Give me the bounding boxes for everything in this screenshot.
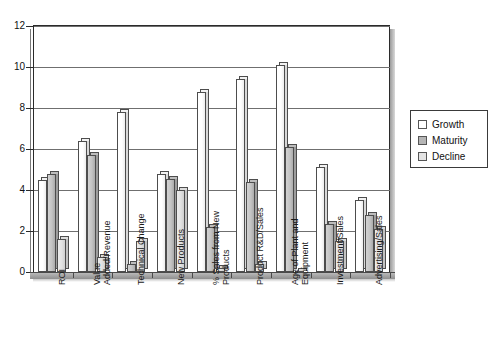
x-axis-category-label: Technical Change: [136, 213, 146, 285]
y-axis-tick: [26, 67, 33, 68]
y-axis-line: [33, 25, 34, 273]
x-axis-tick: [231, 273, 232, 278]
gridline: [33, 26, 390, 27]
bar-chart: 024681012 ROIValueAdded/RevenueTechnical…: [0, 0, 501, 364]
y-axis-tick: [26, 190, 33, 191]
x-axis-tick: [73, 273, 74, 278]
legend-item-maturity[interactable]: Maturity: [418, 133, 487, 148]
x-axis-category-label-line: Age of Plant and: [290, 218, 300, 285]
x-axis-category-label: % Sales from NewProducts: [211, 211, 231, 285]
y-axis-tick: [26, 26, 33, 27]
x-axis-category-label-line: Products: [221, 211, 231, 285]
legend-label: Growth: [432, 119, 464, 130]
legend-swatch-icon: [418, 120, 427, 129]
x-axis-category-label: Investment/Sales: [335, 216, 345, 285]
gridline: [33, 108, 390, 109]
x-axis-tick: [271, 273, 272, 278]
x-axis-tick: [311, 273, 312, 278]
x-axis-category-label: ValueAdded/Revenue: [92, 220, 112, 285]
x-axis-category-label: ROI: [57, 269, 67, 285]
x-axis-category-label-line: % Sales from New: [211, 211, 221, 285]
legend-item-growth[interactable]: Growth: [418, 117, 487, 132]
x-axis-tick: [350, 273, 351, 278]
legend-label: Decline: [432, 151, 465, 162]
x-axis-category-label-line: Value: [92, 220, 102, 285]
legend-swatch-icon: [418, 136, 427, 145]
y-axis-tick: [26, 108, 33, 109]
x-axis-category-label-line: Equipment: [300, 218, 310, 285]
gridline: [33, 190, 390, 191]
y-axis-tick: [26, 149, 33, 150]
x-axis-category-label: Product R&D/Sales: [255, 207, 265, 285]
x-axis-category-label-line: Investment/Sales: [335, 216, 345, 285]
y-axis-tick-label: 0: [0, 267, 25, 277]
x-axis-category-label: Age of Plant andEquipment: [290, 218, 310, 285]
x-axis-category-label-line: Advertising/Sales: [374, 215, 384, 285]
y-axis-tick-label: 8: [0, 103, 25, 113]
x-axis-category-label-line: New Products: [176, 229, 186, 285]
x-axis-category-label: Advertising/Sales: [374, 215, 384, 285]
plot-right-wall: [390, 29, 395, 277]
x-axis-tick: [390, 273, 391, 278]
x-axis-category-label-line: Product R&D/Sales: [255, 207, 265, 285]
legend-item-decline[interactable]: Decline: [418, 149, 487, 164]
legend-label: Maturity: [432, 135, 468, 146]
y-axis-tick-label: 4: [0, 185, 25, 195]
x-axis-category-label-line: Technical Change: [136, 213, 146, 285]
x-axis-category-label-line: Added/Revenue: [102, 220, 112, 285]
x-axis-tick: [112, 273, 113, 278]
x-axis-tick: [192, 273, 193, 278]
x-axis-tick: [152, 273, 153, 278]
y-axis-tick-label: 10: [0, 62, 25, 72]
y-axis-tick: [26, 231, 33, 232]
legend-swatch-icon: [418, 152, 427, 161]
legend: GrowthMaturityDecline: [410, 110, 488, 168]
y-axis-tick-label: 2: [0, 226, 25, 236]
x-axis-category-label-line: ROI: [57, 269, 67, 285]
y-axis-tick-label: 6: [0, 144, 25, 154]
y-axis-tick-label: 12: [0, 21, 25, 31]
gridline: [33, 67, 390, 68]
x-axis-category-label: New Products: [176, 229, 186, 285]
gridline: [33, 149, 390, 150]
